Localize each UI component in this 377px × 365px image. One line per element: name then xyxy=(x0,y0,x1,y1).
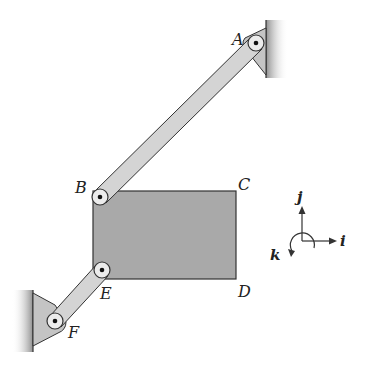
axis-label-k: k xyxy=(270,246,280,264)
label-a: A xyxy=(230,30,244,49)
label-e: E xyxy=(99,284,112,303)
pin-f xyxy=(47,313,63,329)
label-f: F xyxy=(67,323,80,342)
pin-a xyxy=(248,35,264,51)
label-b: B xyxy=(74,178,87,197)
axis-label-i: i xyxy=(340,232,346,250)
label-d: D xyxy=(237,282,251,301)
pin-b xyxy=(92,189,108,205)
linkage-diagram: A B C D E F j i k xyxy=(0,0,377,365)
pin-e xyxy=(94,262,110,278)
link-ab xyxy=(94,38,262,203)
axis-label-j: j xyxy=(294,188,303,206)
label-c: C xyxy=(238,175,250,194)
coordinate-axes: j i k xyxy=(270,188,346,264)
plate-bcde xyxy=(93,191,236,279)
